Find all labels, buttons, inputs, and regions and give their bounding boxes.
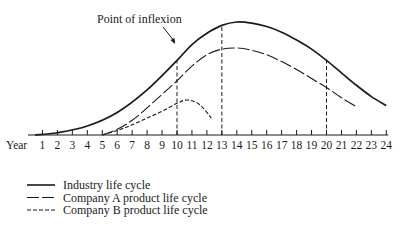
x-tick-label-22: 22 [351, 139, 363, 151]
industry-life-cycle-line [35, 22, 386, 135]
company-a-life-cycle-line [102, 48, 356, 135]
company-b-life-cycle-line [102, 100, 211, 135]
x-tick-label-9: 9 [159, 139, 165, 151]
legend: Industry life cycle Company A product li… [27, 178, 208, 217]
annotation-text: Point of inflexion [97, 12, 182, 26]
x-tick-label-20: 20 [321, 139, 333, 151]
legend-label-company-b: Company B product life cycle [63, 203, 208, 217]
x-tick-label-17: 17 [276, 139, 288, 151]
x-tick-label-13: 13 [216, 139, 228, 151]
arrow-head-icon [171, 38, 176, 44]
x-tick-label-15: 15 [246, 139, 258, 151]
x-tick-label-4: 4 [84, 139, 90, 151]
x-axis-label: Year [6, 139, 27, 151]
x-tick-label-2: 2 [55, 139, 61, 151]
x-tick-label-10: 10 [171, 139, 183, 151]
x-tick-label-16: 16 [261, 139, 273, 151]
plot-area [35, 22, 386, 135]
x-tick-label-24: 24 [381, 139, 393, 151]
x-tick-label-19: 19 [306, 139, 318, 151]
x-tick-label-14: 14 [231, 139, 243, 151]
life-cycle-chart: Year123456789101112131415161718192021222… [0, 0, 414, 234]
x-tick-label-11: 11 [186, 139, 197, 151]
x-tick-label-21: 21 [336, 139, 348, 151]
x-tick-label-12: 12 [201, 139, 213, 151]
x-tick-label-6: 6 [114, 139, 120, 151]
x-tick-label-23: 23 [366, 139, 378, 151]
x-tick-label-5: 5 [99, 139, 105, 151]
x-tick-label-18: 18 [291, 139, 303, 151]
x-tick-label-1: 1 [40, 139, 46, 151]
x-tick-label-8: 8 [144, 139, 150, 151]
annotation-point-of-inflexion: Point of inflexion [97, 12, 182, 44]
x-tick-label-7: 7 [129, 139, 135, 151]
x-tick-label-3: 3 [69, 139, 75, 151]
x-axis: Year123456789101112131415161718192021222… [6, 130, 392, 151]
